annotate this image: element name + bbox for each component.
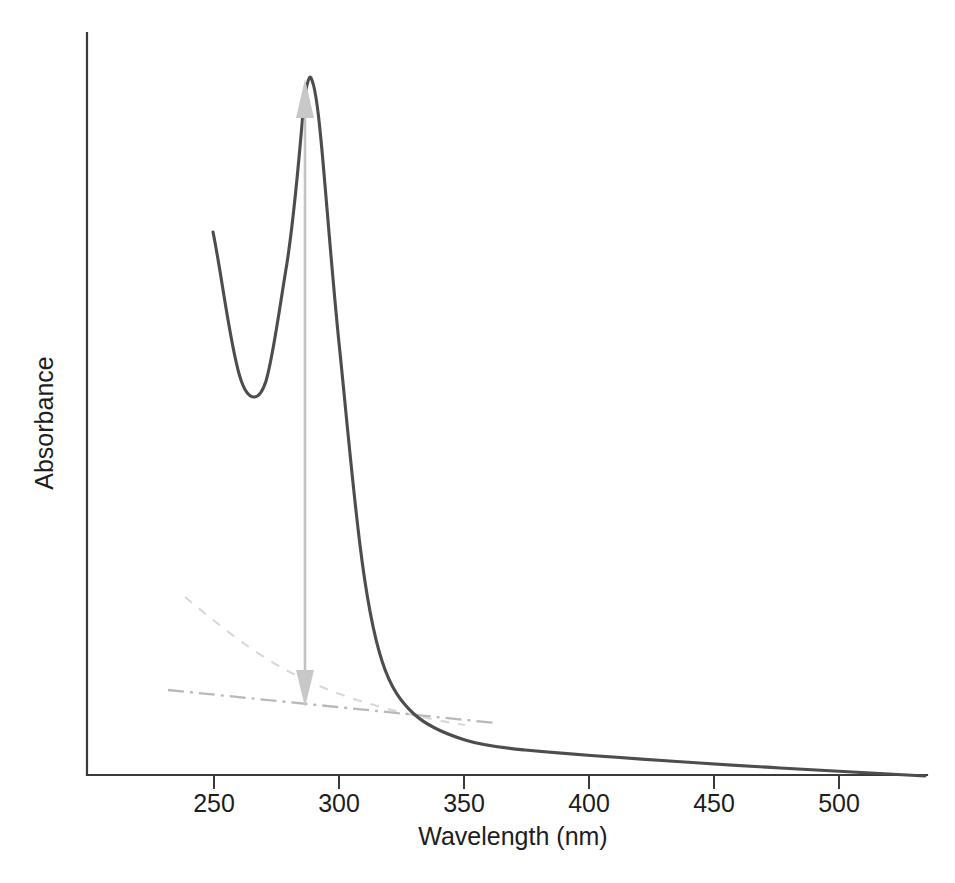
axes-group [87, 33, 927, 775]
x-axis-ticks [214, 775, 839, 789]
x-axis-tick-labels: 250 300 350 400 450 500 [193, 789, 860, 817]
y-axis-title: Absorbance [30, 356, 58, 489]
measurement-arrow-head-down [296, 670, 314, 707]
x-axis-title: Wavelength (nm) [418, 822, 607, 850]
x-tick-label-250: 250 [193, 789, 235, 817]
tangent-baseline-line [168, 690, 496, 723]
absorbance-spectrum-curve [213, 77, 925, 776]
x-tick-label-350: 350 [443, 789, 485, 817]
measurement-arrow-head-up [296, 79, 314, 118]
absorbance-spectrum-figure: 250 300 350 400 450 500 Wavelength (nm) … [0, 0, 955, 883]
x-tick-label-300: 300 [318, 789, 360, 817]
plot-canvas: 250 300 350 400 450 500 Wavelength (nm) … [0, 0, 955, 883]
x-tick-label-450: 450 [693, 789, 735, 817]
x-tick-label-400: 400 [568, 789, 610, 817]
x-tick-label-500: 500 [818, 789, 860, 817]
